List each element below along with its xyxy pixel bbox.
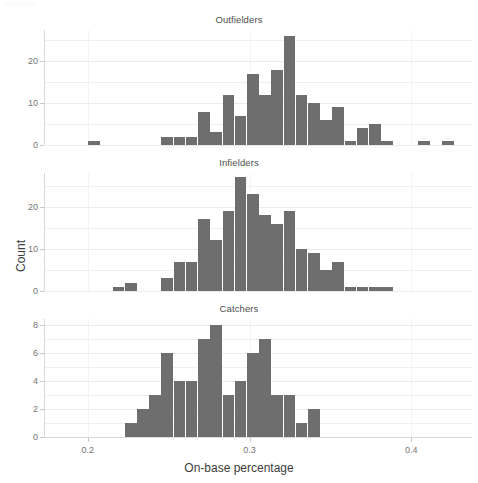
y-tick-mark [40,103,44,104]
x-gridline [88,319,89,437]
histogram-bar [296,95,308,145]
histogram-bar [186,262,198,292]
plot-area [45,319,472,437]
histogram-bar [418,141,430,145]
y-tick-label: 2 [33,404,38,414]
x-tick-mark [250,438,251,442]
y-tick-mark [40,325,44,326]
y-tick-label: 0 [33,286,38,296]
y-gridline-major [45,291,472,292]
y-tick-label: 0 [33,432,38,442]
corner-artifact [2,1,38,6]
histogram-bar [332,262,344,292]
y-tick-mark [40,353,44,354]
histogram-bar [137,409,149,437]
y-gridline-minor [45,186,472,187]
histogram-bar [210,240,222,291]
y-tick-label: 10 [28,98,38,108]
histogram-bar [198,112,210,145]
y-tick-label: 20 [28,202,38,212]
histogram-bar [332,107,344,145]
histogram-bar [345,287,357,291]
y-axis-line [44,173,45,291]
histogram-bar [174,137,186,145]
histogram-bar [113,287,125,291]
x-axis-line [44,437,472,438]
y-tick-mark [40,145,44,146]
chart-root: Outfielders01020Infielders01020Catchers0… [0,0,478,483]
x-gridline [88,173,89,291]
histogram-bar [369,124,381,145]
x-axis-title: On-base percentage [0,461,478,475]
y-tick-label: 4 [33,376,38,386]
histogram-bar [442,141,454,145]
x-tick-label: 0.3 [243,445,256,455]
histogram-bar [284,36,296,145]
histogram-bar [259,215,271,291]
histogram-bar [308,409,320,437]
y-tick-label: 10 [28,244,38,254]
y-tick-mark [40,409,44,410]
y-tick-label: 0 [33,140,38,150]
histogram-bar [125,283,137,291]
histogram-bar [210,325,222,437]
histogram-bar [198,219,210,291]
histogram-bar [223,395,235,437]
y-tick-mark [40,381,44,382]
histogram-bar [369,287,381,291]
histogram-bar [235,381,247,437]
x-gridline [411,319,412,437]
histogram-bar [149,395,161,437]
y-tick-label: 20 [28,56,38,66]
panel-title: Outfielders [0,14,478,25]
histogram-bar [308,253,320,291]
histogram-bar [161,353,173,437]
y-tick-mark [40,61,44,62]
histogram-bar [247,353,259,437]
histogram-bar [174,262,186,292]
histogram-bar [210,132,222,145]
histogram-bar [186,381,198,437]
y-axis-title: Count [14,240,28,272]
histogram-bar [357,287,369,291]
y-tick-mark [40,291,44,292]
y-tick-mark [40,249,44,250]
histogram-bar [223,95,235,145]
histogram-bar [357,128,369,145]
histogram-bar [345,141,357,145]
histogram-bar [284,395,296,437]
histogram-bar [161,137,173,145]
panel-title: Infielders [0,157,478,168]
histogram-bar [223,211,235,291]
y-axis-line [44,319,45,437]
y-axis-line [44,30,45,145]
histogram-bar [161,278,173,291]
histogram-bar [174,381,186,437]
plot-area [45,173,472,291]
histogram-bar [259,95,271,145]
x-tick-mark [88,438,89,442]
y-gridline-minor [45,40,472,41]
histogram-bar [198,339,210,437]
histogram-bar [320,120,332,145]
y-gridline-major [45,61,472,62]
histogram-bar [247,194,259,291]
histogram-bar [320,270,332,291]
x-tick-label: 0.4 [405,445,418,455]
histogram-bar [247,74,259,145]
histogram-bar [259,339,271,437]
histogram-bar [235,116,247,145]
histogram-bar [381,141,393,145]
y-tick-label: 6 [33,348,38,358]
plot-area [45,30,472,145]
histogram-bar [271,395,283,437]
histogram-bar [271,70,283,145]
x-gridline [411,30,412,145]
x-tick-label: 0.2 [82,445,95,455]
histogram-bar [186,137,198,145]
histogram-bar [271,224,283,291]
x-gridline [411,173,412,291]
histogram-bar [88,141,100,145]
y-tick-mark [40,207,44,208]
x-tick-mark [411,438,412,442]
